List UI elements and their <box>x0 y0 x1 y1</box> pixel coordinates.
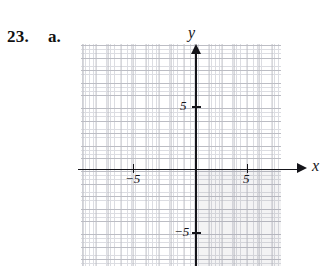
y-axis-tick-neg5 <box>192 232 201 234</box>
y-axis-label-neg5: −5 <box>174 224 189 240</box>
x-axis-arrow-icon <box>297 163 307 173</box>
x-axis-line <box>78 169 300 171</box>
problem-part-label: a. <box>48 27 61 47</box>
y-axis-arrow-icon <box>191 44 201 54</box>
worksheet-page: 23. a. 5 −5 −5 5 y x <box>0 0 333 266</box>
quadrant-iv-shading <box>196 170 281 266</box>
y-axis-line <box>195 52 197 266</box>
y-axis-tick-5 <box>192 106 201 108</box>
coordinate-plane-graph: 5 −5 −5 5 y x <box>81 44 281 266</box>
x-axis-name-label: x <box>312 157 319 175</box>
y-axis-name-label: y <box>188 24 195 42</box>
x-axis-label-neg5: −5 <box>125 171 140 187</box>
x-axis-label-5: 5 <box>243 171 250 187</box>
y-axis-label-5: 5 <box>180 98 187 114</box>
problem-number: 23. <box>7 27 29 47</box>
